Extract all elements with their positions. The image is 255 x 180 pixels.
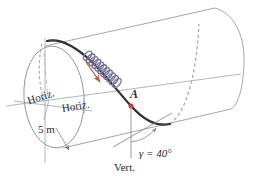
coil-spring-bead-chain <box>82 50 123 89</box>
tangent-line-at-a <box>113 113 172 147</box>
cylinder-bottom-edge <box>63 109 231 148</box>
cylinder-top-edge <box>45 8 215 46</box>
label-angle-gamma: γ = 40° <box>139 148 172 159</box>
label-radius-dimension: 5 m <box>38 124 55 135</box>
right-end-ellipse <box>215 8 244 109</box>
figure-canvas: Horiz. Horiz. 5 m A γ = 40° Vert. <box>0 0 255 180</box>
label-vertical-reference: Vert. <box>114 162 135 173</box>
helical-path-dashed-hidden-right <box>170 24 199 124</box>
angle-arc-gamma <box>131 128 156 142</box>
label-point-a: A <box>130 88 138 100</box>
